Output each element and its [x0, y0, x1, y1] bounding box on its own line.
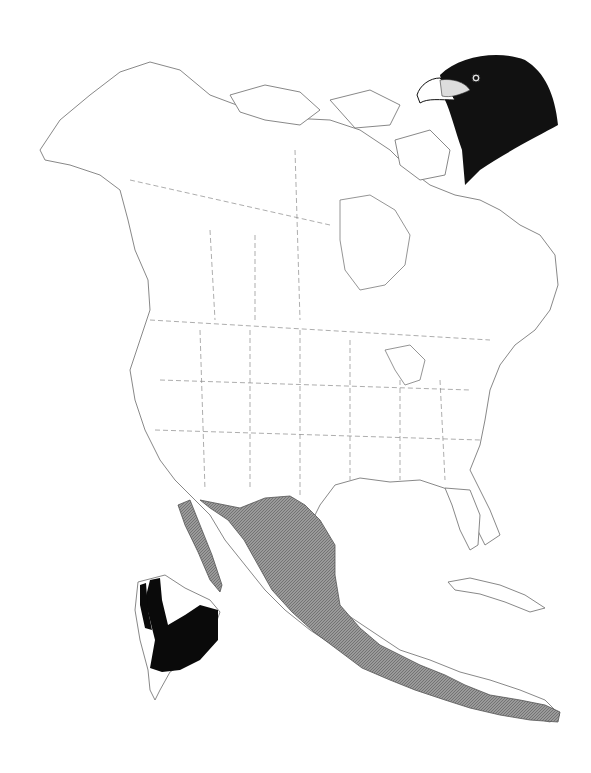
- arctic-island: [330, 90, 400, 128]
- south-america-inset: [135, 575, 220, 700]
- cuba: [448, 578, 545, 612]
- map: [0, 0, 591, 773]
